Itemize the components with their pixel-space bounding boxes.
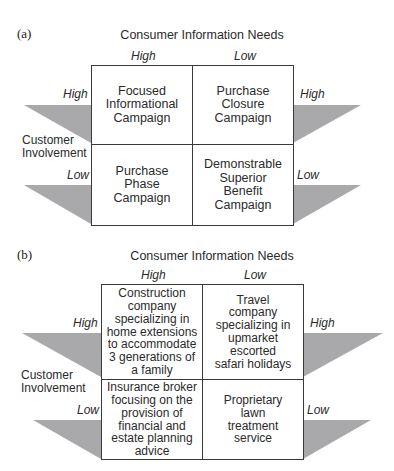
cell-low-high: Purchase Phase Campaign [96,145,188,225]
panel-label-a: (a) [17,26,31,42]
col-header-low: Low [234,49,256,63]
cell-low-low: Demonstrable Superior Benefit Campaign [199,145,287,225]
panel-label-b: (b) [17,247,32,263]
wedge-a-left-low [24,185,91,224]
axis-label-customer-involvement: Customer Involvement [22,134,87,160]
row-label-right-high: High [310,316,335,330]
col-header-low: Low [244,268,266,282]
wedge-a-right-low [293,185,361,224]
matrix-b-divider-v [202,284,203,460]
wedge-b-right-low [303,420,371,459]
row-label-right-high: High [300,87,325,101]
axis-label-line2: Involvement [21,382,86,395]
matrix-a-divider-v [192,65,193,226]
diagram-a-title: Consumer Information Needs [112,28,292,42]
row-label-right-low: Low [297,168,319,182]
axis-label-line2: Involvement [22,147,87,160]
col-header-high: High [141,268,166,282]
wedge-b-left-low [33,420,101,459]
row-label-left-high: High [63,87,88,101]
cell-low-low: Proprietary lawn treatment service [214,380,292,459]
col-header-high: High [131,49,156,63]
row-label-left-low: Low [77,403,99,417]
wedge-b-right-high [303,333,383,377]
row-label-left-high: High [73,316,98,330]
cell-high-high: Construction company specializing in hom… [102,285,202,379]
cell-low-high: Insurance broker focusing on the provisi… [102,380,202,459]
row-label-right-low: Low [307,403,329,417]
cell-high-high: Focused Informational Campaign [96,66,188,144]
cell-high-low: Travel company specializing in upmarket … [212,285,294,379]
cell-high-low: Purchase Closure Campaign [196,66,290,144]
diagram-b-title: Consumer Information Needs [122,249,302,263]
row-label-left-low: Low [67,168,89,182]
wedge-a-right-high [293,105,361,143]
axis-label-customer-involvement: Customer Involvement [21,369,86,395]
